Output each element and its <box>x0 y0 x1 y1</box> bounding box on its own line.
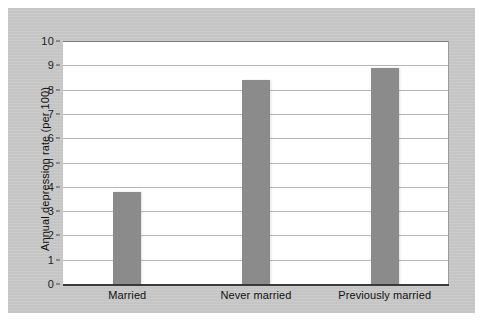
bar-previously-married <box>371 68 399 284</box>
gridline-10 <box>63 41 449 42</box>
y-tick-label-0: 0 <box>48 278 54 290</box>
y-tick-mark-8 <box>56 89 60 90</box>
x-tick-label-never-married: Never married <box>221 289 292 301</box>
y-tick-label-3: 3 <box>48 205 54 217</box>
y-tick-mark-4 <box>56 186 60 187</box>
chart-figure: Annual depression rate (per 100) 0123456… <box>0 0 483 328</box>
gridline-9 <box>63 65 449 66</box>
y-tick-label-8: 8 <box>48 84 54 96</box>
y-tick-label-4: 4 <box>48 181 54 193</box>
y-tick-label-6: 6 <box>48 132 54 144</box>
y-tick-mark-5 <box>56 162 60 163</box>
y-tick-label-10: 10 <box>41 35 54 47</box>
y-tick-mark-2 <box>56 235 60 236</box>
y-tick-mark-0 <box>56 284 60 285</box>
y-tick-label-5: 5 <box>48 157 54 169</box>
y-tick-label-2: 2 <box>48 229 54 241</box>
x-axis-tick-labels: MarriedNever marriedPreviously married <box>63 289 449 311</box>
gridline-0 <box>63 284 449 286</box>
x-tick-label-married: Married <box>108 289 146 301</box>
y-tick-label-7: 7 <box>48 108 54 120</box>
y-tick-mark-7 <box>56 113 60 114</box>
y-tick-label-9: 9 <box>48 59 54 71</box>
y-tick-mark-6 <box>56 138 60 139</box>
y-tick-mark-9 <box>56 65 60 66</box>
y-tick-label-1: 1 <box>48 254 54 266</box>
bar-married <box>113 192 141 284</box>
y-tick-mark-10 <box>56 41 60 42</box>
y-axis-tick-labels: 012345678910 <box>8 41 60 284</box>
plot-right-edge <box>448 41 449 284</box>
chart-panel: Annual depression rate (per 100) 0123456… <box>8 8 475 313</box>
bar-never-married <box>242 80 270 284</box>
x-tick-label-previously-married: Previously married <box>338 289 431 301</box>
plot-area <box>63 41 449 284</box>
y-tick-mark-3 <box>56 211 60 212</box>
y-tick-mark-1 <box>56 259 60 260</box>
